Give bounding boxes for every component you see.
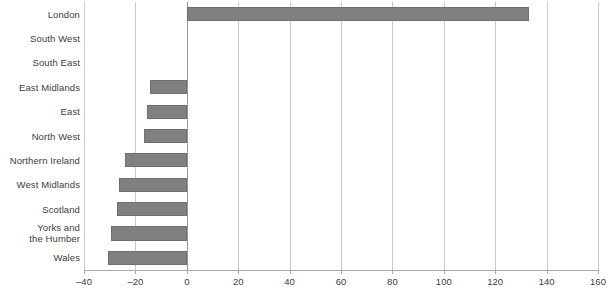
gridline (547, 2, 548, 270)
axis-tick (238, 270, 239, 274)
bar (144, 129, 186, 143)
bar (111, 226, 187, 240)
category-label: Scotland (0, 204, 80, 215)
gridline (238, 2, 239, 270)
value-tick-label: 120 (487, 276, 503, 288)
bar (150, 80, 187, 94)
category-label: Wales (0, 252, 80, 263)
value-tick-label: 80 (387, 276, 398, 288)
axis-tick (290, 270, 291, 274)
gridline (444, 2, 445, 270)
value-axis-labels: –40–20020406080100120140160 (84, 276, 604, 296)
gridline (495, 2, 496, 270)
gridline (598, 2, 599, 270)
axis-tick (444, 270, 445, 274)
axis-tick (598, 270, 599, 274)
value-tick-label: 60 (336, 276, 347, 288)
category-label: East (0, 106, 80, 117)
category-label: Yorks and the Humber (0, 222, 80, 244)
gridline (290, 2, 291, 270)
category-label: North West (0, 131, 80, 142)
value-tick-label: 100 (436, 276, 452, 288)
axis-tick (84, 270, 85, 274)
bar (187, 56, 188, 70)
axis-tick (392, 270, 393, 274)
value-tick-label: 140 (539, 276, 555, 288)
bar (147, 105, 187, 119)
category-axis-labels: LondonSouth WestSouth EastEast MidlandsE… (0, 2, 80, 270)
gridline (84, 2, 85, 270)
category-label: East Midlands (0, 82, 80, 93)
bar (117, 202, 186, 216)
value-tick-label: 20 (233, 276, 244, 288)
value-tick-label: 0 (184, 276, 189, 288)
bar (125, 153, 187, 167)
plot-area (84, 2, 598, 270)
bar (119, 178, 187, 192)
bar (108, 251, 186, 265)
axis-tick (341, 270, 342, 274)
category-label: South East (0, 57, 80, 68)
gridline (392, 2, 393, 270)
bar (187, 7, 529, 21)
value-tick-label: –40 (76, 276, 92, 288)
gridline (341, 2, 342, 270)
value-tick-label: –20 (127, 276, 143, 288)
category-label: London (0, 9, 80, 20)
value-tick-label: 40 (284, 276, 295, 288)
axis-tick (135, 270, 136, 274)
category-label: Northern Ireland (0, 155, 80, 166)
bar (187, 31, 188, 45)
value-tick-label: 160 (590, 276, 606, 288)
axis-tick (547, 270, 548, 274)
category-label: West Midlands (0, 179, 80, 190)
axis-tick (187, 270, 188, 274)
category-label: South West (0, 33, 80, 44)
axis-tick (495, 270, 496, 274)
bar-chart: LondonSouth WestSouth EastEast MidlandsE… (0, 0, 615, 300)
